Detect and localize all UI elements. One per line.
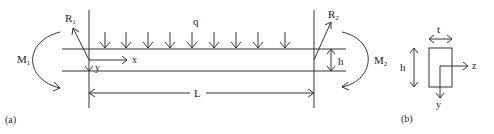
length-label: L: [194, 87, 201, 99]
load-arrow-icon: [253, 32, 263, 48]
load-arrow-icon: [143, 32, 153, 48]
left-reaction-label: R1: [65, 12, 76, 26]
section-height-label: h: [400, 61, 406, 73]
load-arrow-icon: [231, 32, 241, 48]
z-axis-label: z: [472, 60, 477, 71]
y-axis-label: y: [95, 62, 100, 73]
load-arrow-icon: [280, 32, 290, 48]
load-arrow-icon: [100, 32, 110, 48]
section-y-axis-label: y: [436, 99, 441, 110]
distributed-load-arrows: [100, 32, 290, 48]
panel-a: q R1 R2 M1 M2 x y h L (a): [5, 8, 388, 126]
load-arrow-icon: [121, 32, 131, 48]
right-reaction-arrow: [314, 22, 331, 60]
height-label: h: [338, 55, 344, 67]
load-arrow-icon: [209, 32, 219, 48]
beam-diagram: q R1 R2 M1 M2 x y h L (a): [0, 0, 494, 134]
load-arrow-icon: [187, 32, 197, 48]
thickness-label: t: [437, 23, 440, 35]
right-moment-arc: [342, 32, 368, 87]
left-moment-arc: [33, 32, 60, 88]
left-reaction-arrow: [73, 28, 89, 60]
right-moment-label: M2: [374, 54, 388, 68]
panel-b-caption: (b): [401, 113, 413, 125]
x-axis-label: x: [132, 54, 137, 65]
left-moment-label: M1: [17, 53, 31, 67]
right-reaction-label: R2: [328, 8, 339, 22]
diagram-canvas: q R1 R2 M1 M2 x y h L (a): [0, 0, 494, 134]
load-arrow-icon: [165, 32, 175, 48]
panel-b: t h z y (b): [400, 23, 477, 125]
panel-a-caption: (a): [5, 114, 16, 126]
load-label: q: [193, 15, 199, 27]
